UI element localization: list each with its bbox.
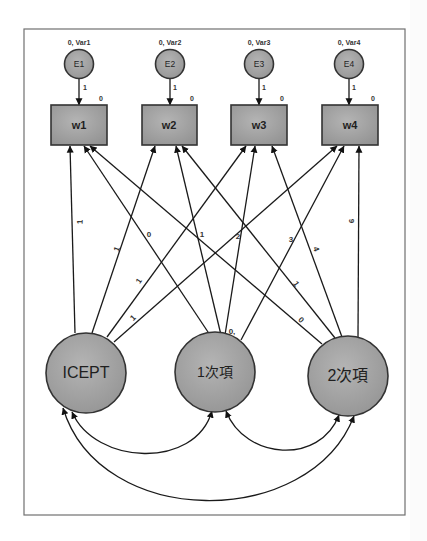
diagram-frame [24,29,405,515]
error-node-e2[interactable]: 0, Var2 E2 [156,39,185,79]
path-diagram: 0, Var1 E1 0, Var2 E2 0, Var3 E3 0, Var4… [0,0,427,541]
latent-label: 1次項 [197,364,233,380]
error-path-weight: 1 [173,84,177,91]
latent-linear[interactable]: 1次項 [175,332,255,412]
error-node-e3[interactable]: 0, Var3 E3 [245,39,274,79]
latent-icept[interactable]: ICEPT [46,333,126,413]
error-node-e1[interactable]: 0, Var1 E1 [65,39,94,79]
error-node-e4[interactable]: 0, Var4 E4 [335,39,364,79]
latent-label: 2次項 [328,367,369,384]
error-node-label: E3 [254,59,265,69]
observed-label: w2 [161,119,177,131]
error-param-label: 0, Var1 [68,39,91,47]
observed-label: w1 [71,119,87,131]
error-param-label: 0, Var3 [248,39,271,47]
error-path-weight: 1 [83,84,87,91]
error-node-label: E1 [74,59,85,69]
latent-quadratic[interactable]: 2次項 [308,336,388,416]
error-path-weight: 1 [262,84,266,91]
loading-linear-w4: 3 [289,235,294,244]
error-path-weight: 1 [352,84,356,91]
loading-linear-w2: 1 [200,230,205,239]
loading-linear-w3: 2 [236,232,241,241]
loading-linear-w1: 0 [147,230,152,239]
observed-label: w4 [342,119,359,131]
latent-label: ICEPT [62,364,109,381]
loading-quadratic-w4: 9 [347,219,356,224]
intercept-label: 0 [99,95,103,102]
intercept-label: 0 [280,95,284,102]
error-node-label: E4 [344,59,355,69]
error-node-label: E2 [165,59,176,69]
error-param-label: 0, Var4 [338,39,361,47]
intercept-label: 0 [190,95,194,102]
intercept-label: 0 [371,95,375,102]
background-page-ghost [410,0,427,541]
error-param-label: 0, Var2 [159,39,182,47]
observed-label: w3 [251,119,267,131]
